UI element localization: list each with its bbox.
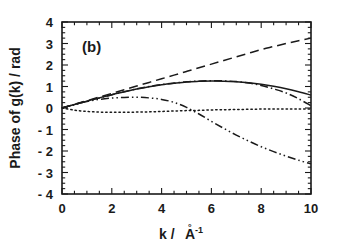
y-tick-label: 0 bbox=[46, 101, 53, 116]
x-tick-label: 10 bbox=[304, 201, 318, 216]
x-tick-label: 8 bbox=[258, 201, 265, 216]
x-axis-label-prefix: k / bbox=[159, 226, 175, 242]
y-tick-label: - 4 bbox=[38, 187, 54, 202]
x-axis-label-ring: ° bbox=[188, 222, 192, 232]
x-tick-label: 6 bbox=[208, 201, 215, 216]
figure-panel-b: 024681043210- 1- 2- 3- 4 (b) k / A ° -1 … bbox=[0, 0, 339, 244]
y-tick-label: - 3 bbox=[38, 166, 53, 181]
y-tick-label: 4 bbox=[46, 15, 54, 30]
panel-label: (b) bbox=[82, 38, 101, 55]
x-tick-label: 4 bbox=[158, 201, 166, 216]
phase-plot-chart: 024681043210- 1- 2- 3- 4 (b) k / A ° -1 … bbox=[0, 0, 339, 244]
y-tick-label: 2 bbox=[46, 58, 53, 73]
y-tick-label: 1 bbox=[46, 80, 53, 95]
x-tick-label: 0 bbox=[58, 201, 65, 216]
y-tick-label: 3 bbox=[46, 37, 53, 52]
y-axis-label: Phase of g(k) / rad bbox=[7, 47, 23, 168]
x-axis-label-exponent: -1 bbox=[195, 225, 203, 235]
x-tick-label: 2 bbox=[108, 201, 115, 216]
y-tick-label: - 2 bbox=[38, 144, 53, 159]
y-tick-label: - 1 bbox=[38, 123, 53, 138]
